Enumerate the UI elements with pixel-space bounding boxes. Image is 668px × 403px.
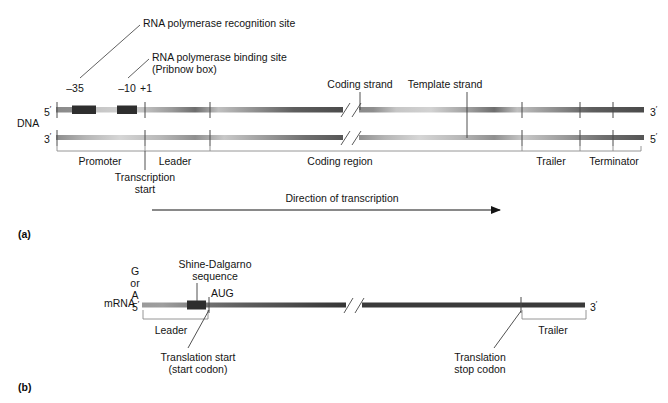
dna-top-strand xyxy=(56,106,644,115)
translation-pointers xyxy=(188,310,521,348)
strand-pointer-lines xyxy=(360,92,467,138)
dna-bottom-strand xyxy=(56,135,644,140)
diagram-graphics xyxy=(0,0,668,403)
mrna-strand xyxy=(142,301,585,310)
leader-line-recognition-site xyxy=(80,25,140,78)
callout-leader-lines-a xyxy=(80,25,149,78)
mrna-leader-bracket xyxy=(143,310,208,319)
region-bracket-a xyxy=(57,146,641,151)
mrna-trailer-bracket xyxy=(522,310,586,319)
pointer-translation-start xyxy=(188,310,209,348)
mrna-break-mark xyxy=(348,299,360,312)
leader-line-binding-site xyxy=(128,59,149,78)
promoter-box-minus10 xyxy=(117,106,137,115)
dna-break-marks xyxy=(345,104,357,144)
figure-root: (a) RNA polymerase recognition site RNA … xyxy=(0,0,668,403)
promoter-box-minus35 xyxy=(72,106,96,115)
shine-dalgarno-box xyxy=(187,301,206,310)
pointer-translation-stop xyxy=(494,311,521,348)
